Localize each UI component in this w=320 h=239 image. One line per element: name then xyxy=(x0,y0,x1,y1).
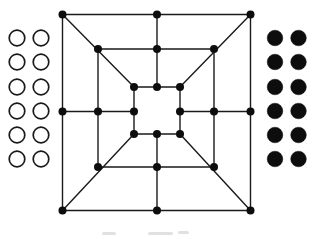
black-piece xyxy=(267,151,283,167)
caption-remnant-mark xyxy=(178,231,189,234)
caption-remnant-mark xyxy=(148,232,173,235)
black-piece xyxy=(291,54,307,70)
board-point-middle-top-mid xyxy=(153,45,161,53)
board-point-outer-mid-left xyxy=(59,108,67,116)
board-point-middle-bottom-mid xyxy=(153,163,161,171)
black-piece xyxy=(267,79,283,95)
white-piece xyxy=(9,127,25,143)
board-point-inner-bottom-right xyxy=(176,130,184,138)
black-piece xyxy=(291,79,307,95)
white-piece xyxy=(33,127,49,143)
black-piece xyxy=(267,30,283,46)
white-piece xyxy=(9,103,25,119)
board-point-middle-mid-right xyxy=(210,108,218,116)
black-piece xyxy=(267,103,283,119)
black-piece xyxy=(291,127,307,143)
white-piece xyxy=(33,151,49,167)
board-point-middle-bottom-right xyxy=(210,163,218,171)
board-point-inner-top-right xyxy=(176,83,184,91)
board-point-inner-mid-right xyxy=(176,108,184,116)
white-piece xyxy=(33,54,49,70)
board-point-middle-bottom-left xyxy=(94,163,102,171)
black-piece xyxy=(291,103,307,119)
board-point-inner-bottom-mid xyxy=(153,130,161,138)
black-piece xyxy=(291,151,307,167)
board-point-middle-mid-left xyxy=(94,108,102,116)
white-piece xyxy=(9,54,25,70)
white-piece xyxy=(33,79,49,95)
board-point-outer-top-left xyxy=(59,11,67,19)
twelve-mens-morris-board xyxy=(0,0,320,239)
board-point-outer-top-right xyxy=(247,11,255,19)
board-point-middle-top-left xyxy=(94,45,102,53)
black-piece xyxy=(291,30,307,46)
board-point-inner-bottom-left xyxy=(130,130,138,138)
board-point-outer-bottom-right xyxy=(247,207,255,215)
board-point-outer-top-mid xyxy=(153,11,161,19)
white-piece xyxy=(9,79,25,95)
board-point-outer-bottom-left xyxy=(59,207,67,215)
board-point-outer-mid-right xyxy=(247,108,255,116)
board-line xyxy=(180,134,251,211)
board-point-inner-top-mid xyxy=(153,83,161,91)
board-point-inner-top-left xyxy=(130,83,138,91)
board-point-outer-bottom-mid xyxy=(153,207,161,215)
board-point-inner-mid-left xyxy=(130,108,138,116)
board-point-middle-top-right xyxy=(210,45,218,53)
white-piece xyxy=(9,151,25,167)
black-piece xyxy=(267,54,283,70)
caption-remnant-mark xyxy=(102,232,116,235)
white-piece xyxy=(9,30,25,46)
black-piece xyxy=(267,127,283,143)
morris-board-figure xyxy=(0,0,320,239)
white-piece xyxy=(33,30,49,46)
white-piece xyxy=(33,103,49,119)
